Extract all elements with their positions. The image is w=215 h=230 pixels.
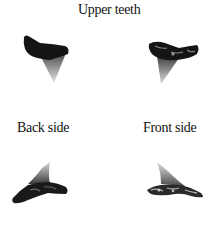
- figure-title: Upper teeth: [78, 2, 140, 18]
- shark-tooth-front-side-image: [145, 160, 207, 205]
- shark-tooth-upper-right-image: [147, 40, 203, 90]
- shark-tooth-back-side-image: [10, 160, 70, 205]
- back-side-label: Back side: [17, 120, 69, 136]
- shark-tooth-upper-left-image: [20, 33, 75, 88]
- shark-tooth-icon: [147, 40, 203, 90]
- front-side-label: Front side: [143, 120, 196, 136]
- shark-tooth-icon: [20, 33, 75, 88]
- shark-tooth-icon: [145, 160, 207, 205]
- shark-tooth-icon: [10, 160, 70, 205]
